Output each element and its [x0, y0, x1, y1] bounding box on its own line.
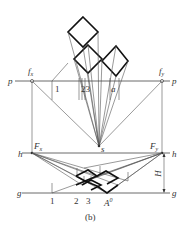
- ground-label-2: 2: [74, 196, 79, 206]
- fy-label: fy: [159, 66, 165, 77]
- Fy-label: Fy: [149, 141, 159, 152]
- figure-caption: (b): [85, 212, 96, 222]
- perspective-diagram: p p fx fy 1 23 a s h h Fx Fy g g H 1 2 3…: [0, 0, 187, 235]
- p-left-label: p: [7, 76, 13, 86]
- plan-label-a: a: [111, 84, 116, 94]
- h-left-label: h: [18, 149, 23, 159]
- Fx-label: Fx: [33, 141, 43, 152]
- station-point: [98, 145, 101, 148]
- sight-lines: [32, 32, 162, 146]
- perspective-squares: [76, 170, 118, 193]
- s-label: s: [101, 144, 105, 154]
- plan-label-23: 23: [81, 84, 91, 94]
- h-right-label: h: [172, 149, 177, 159]
- g-right-label: g: [172, 188, 177, 198]
- plan-label-1: 1: [55, 84, 60, 94]
- g-left-label: g: [17, 188, 22, 198]
- H-label: H: [153, 169, 163, 177]
- ground-label-1: 1: [50, 196, 55, 206]
- ground-label-A: A0: [103, 197, 113, 208]
- fx-label: fx: [28, 66, 34, 77]
- p-right-label: p: [171, 76, 177, 86]
- ground-label-3: 3: [86, 196, 91, 206]
